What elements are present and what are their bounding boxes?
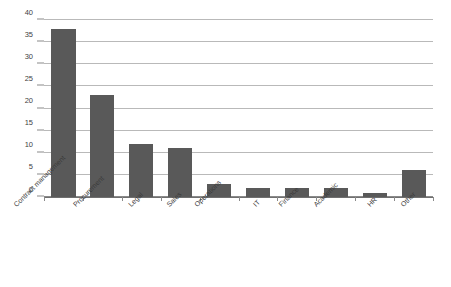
y-axis-tick-label: 20: [25, 97, 33, 105]
y-axis-tick-mark: [37, 196, 44, 197]
x-label-slot: IT: [239, 200, 278, 280]
bar-slot: [122, 20, 161, 197]
bar-slot: [83, 20, 122, 197]
plot-area: [44, 20, 433, 197]
y-axis-tick-mark: [37, 63, 44, 64]
bar-slot: [161, 20, 200, 197]
bar-slot: [394, 20, 433, 197]
x-label-slot: Operations: [200, 200, 239, 280]
y-axis-tick-label: 10: [25, 142, 33, 150]
x-label-slot: Sales: [161, 200, 200, 280]
bar[interactable]: [51, 29, 75, 197]
bar[interactable]: [129, 144, 153, 197]
x-axis-tick-mark: [433, 197, 434, 201]
y-axis-tick-label: 25: [25, 75, 33, 83]
x-label-slot: Procurement: [83, 200, 122, 280]
y-axis-tick-mark: [37, 151, 44, 152]
y-axis-tick-label: 30: [25, 53, 33, 61]
bar-slot: [239, 20, 278, 197]
x-label-slot: Academic: [316, 200, 355, 280]
y-axis: 0510152025303540: [0, 20, 44, 197]
x-label-slot: HR: [355, 200, 394, 280]
bar[interactable]: [246, 188, 270, 197]
y-axis-tick-mark: [37, 107, 44, 108]
y-axis-tick-mark: [37, 19, 44, 20]
x-label-slot: Contract management: [44, 200, 83, 280]
y-axis-tick-mark: [37, 85, 44, 86]
y-axis-tick-label: 40: [25, 9, 33, 17]
bar[interactable]: [168, 148, 192, 197]
y-axis-tick-mark: [37, 129, 44, 130]
x-label-slot: Finance: [277, 200, 316, 280]
bar-slot: [316, 20, 355, 197]
x-axis-tick-label[interactable]: IT: [252, 199, 262, 209]
bar-chart: 0510152025303540 Contract managementProc…: [0, 0, 451, 287]
x-label-slot: Legal: [122, 200, 161, 280]
y-axis-tick-label: 15: [25, 119, 33, 127]
bar-slot: [277, 20, 316, 197]
y-axis-tick-mark: [37, 41, 44, 42]
bars-container: [44, 20, 433, 197]
x-label-slot: Other: [394, 200, 433, 280]
bar-slot: [200, 20, 239, 197]
x-axis-labels: Contract managementProcurementLegalSales…: [44, 200, 433, 280]
bar-slot: [355, 20, 394, 197]
y-axis-tick-label: 35: [25, 31, 33, 39]
y-axis-tick-label: 5: [29, 164, 33, 172]
